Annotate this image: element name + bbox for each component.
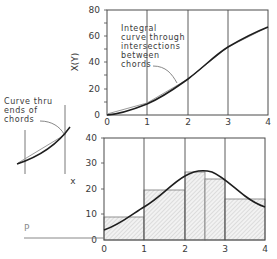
- bottom-xtick-3: 3: [222, 244, 228, 254]
- top-y-axis-label: X(Y): [70, 53, 80, 72]
- p-label: P: [24, 223, 30, 233]
- top-xtick-2: 2: [185, 117, 191, 127]
- bar-1-2: [144, 190, 185, 240]
- top-plot: Integral curve through intersections bet…: [70, 5, 271, 127]
- top-ytick-80: 80: [89, 5, 101, 15]
- bottom-y-axis-label: x: [70, 176, 76, 186]
- top-ytick-40: 40: [89, 57, 101, 67]
- top-xtick-0: 0: [104, 117, 110, 127]
- inset-annotation-line-1: Curve thru: [4, 97, 53, 106]
- top-annotation-line-2: curve through: [121, 33, 185, 42]
- bottom-plot: 40 30 20 10 0 0 1 2 3 4 x P: [24, 133, 268, 254]
- bottom-xtick-0: 0: [101, 244, 107, 254]
- top-annotation-leader: [153, 66, 177, 83]
- inset-annotation-line-3: chords: [4, 115, 34, 124]
- bar-2-2.5: [185, 172, 205, 240]
- top-xtick-4: 4: [265, 117, 271, 127]
- chords-integration-diagram: Integral curve through intersections bet…: [0, 0, 277, 259]
- bottom-ytick-40: 40: [86, 133, 98, 143]
- top-ytick-60: 60: [89, 31, 101, 41]
- bottom-xtick-2: 2: [182, 244, 188, 254]
- top-annotation-line-4: between: [121, 51, 160, 60]
- bottom-ytick-30: 30: [86, 158, 98, 168]
- bars: [104, 172, 265, 240]
- bottom-ytick-10: 10: [86, 209, 98, 219]
- top-ytick-20: 20: [89, 84, 101, 94]
- bottom-ytick-20: 20: [86, 184, 98, 194]
- bottom-xtick-4: 4: [262, 244, 268, 254]
- top-annotation-line-5: chords: [121, 60, 151, 69]
- top-xtick-3: 3: [225, 117, 231, 127]
- inset-annotation-leader: [40, 121, 64, 134]
- bar-2.5-3: [205, 179, 225, 240]
- top-ytick-0: 0: [94, 110, 100, 120]
- top-annotation-line-1: Integral: [121, 24, 157, 33]
- top-xtick-1: 1: [144, 117, 150, 127]
- bottom-ytick-0: 0: [91, 235, 97, 245]
- top-annotation-line-3: intersections: [121, 42, 180, 51]
- bottom-xtick-1: 1: [141, 244, 147, 254]
- chord-inset: Curve thru ends of chords: [4, 97, 70, 174]
- inset-annotation-line-2: ends of: [4, 106, 38, 115]
